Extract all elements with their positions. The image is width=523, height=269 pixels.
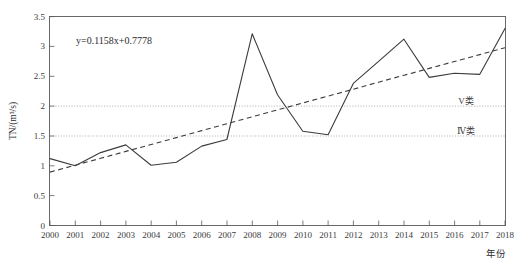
tn-series-line xyxy=(50,28,505,165)
x-tick-label-8: 2008 xyxy=(243,230,262,240)
x-tick-label-10: 2010 xyxy=(294,230,313,240)
class-iv-label: Ⅳ类 xyxy=(457,125,475,136)
x-tick-label-6: 2006 xyxy=(193,230,212,240)
class-v-label: V类 xyxy=(458,95,474,106)
y-tick-label-4: 2 xyxy=(41,101,46,111)
x-tick-label-5: 2005 xyxy=(167,230,186,240)
y-tick-label-6: 3 xyxy=(41,41,46,51)
x-tick-label-13: 2013 xyxy=(370,230,389,240)
y-tick-label-3: 1.5 xyxy=(34,131,46,141)
y-tick-label-2: 1 xyxy=(41,161,46,171)
x-axis-title: 年份 xyxy=(486,248,506,259)
y-tick-label-1: 0.5 xyxy=(34,191,46,201)
y-axis-title: TN/(m³/s) xyxy=(8,102,19,140)
regression-equation-label: y=0.1158x+0.7778 xyxy=(76,35,152,46)
y-axis: 0 0.5 1 1.5 2 2.5 3 3.5 xyxy=(34,12,55,231)
chart-figure: 0 0.5 1 1.5 2 2.5 3 3.5 TN/(m³/s) V类 Ⅳ类 xyxy=(0,0,523,269)
y-tick-label-5: 2.5 xyxy=(34,71,46,81)
plot-frame xyxy=(50,17,506,226)
x-tick-label-7: 2007 xyxy=(218,230,237,240)
x-tick-label-15: 2015 xyxy=(420,230,439,240)
x-tick-label-9: 2009 xyxy=(269,230,288,240)
x-tick-label-4: 2004 xyxy=(142,230,161,240)
x-axis: 2000 2001 2002 2003 2004 2005 2006 2007 … xyxy=(41,221,515,241)
x-tick-label-14: 2014 xyxy=(395,230,414,240)
x-tick-label-18: 2018 xyxy=(496,230,515,240)
x-tick-label-17: 2017 xyxy=(471,230,490,240)
x-tick-label-3: 2003 xyxy=(117,230,136,240)
trend-line xyxy=(50,48,505,172)
x-tick-label-1: 2001 xyxy=(66,230,84,240)
x-tick-label-12: 2012 xyxy=(344,230,362,240)
x-tick-label-16: 2016 xyxy=(446,230,465,240)
x-tick-label-2: 2002 xyxy=(92,230,110,240)
line-chart: 0 0.5 1 1.5 2 2.5 3 3.5 TN/(m³/s) V类 Ⅳ类 xyxy=(0,0,523,269)
x-tick-label-11: 2011 xyxy=(319,230,337,240)
threshold-lines: V类 Ⅳ类 xyxy=(50,95,505,136)
x-tick-label-0: 2000 xyxy=(41,230,60,240)
y-tick-label-7: 3.5 xyxy=(34,12,46,22)
y-tick-label-0: 0 xyxy=(41,221,46,231)
